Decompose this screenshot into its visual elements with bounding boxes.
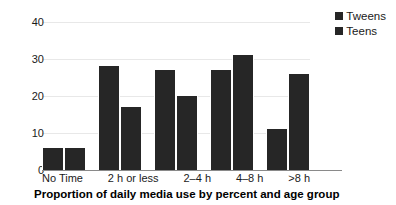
legend-swatch-teens-icon [335,27,343,35]
bar-groups [42,22,310,170]
y-axis-tick-10: 10 [18,127,44,139]
bar-tweens-0 [42,148,64,170]
bar-tweens-4 [266,129,288,170]
x-axis-labels: No Time2 h or less2–4 h4–8 h>8 h [42,172,310,184]
legend-swatch-tweens-icon [335,12,343,20]
chart-caption: Proportion of daily media use by percent… [34,188,374,200]
legend-label-tweens: Tweens [346,10,386,22]
legend-item-tweens[interactable]: Tweens [335,10,386,22]
bar-group [210,22,254,170]
chart-legend: TweensTeens [335,10,386,37]
bar-teens-0 [64,148,86,170]
x-axis-label-3: 4–8 h [236,172,264,184]
bar-group [98,22,142,170]
bar-tweens-1 [98,66,120,170]
y-axis-tick-20: 20 [18,90,44,102]
bar-teens-1 [120,107,142,170]
bar-teens-2 [176,96,198,170]
y-axis-tick-40: 40 [18,16,44,28]
bar-teens-4 [288,74,310,170]
bar-chart: 40 30 20 10 0 No Time2 h or less2–4 h4–8… [0,0,396,205]
x-axis-label-0: No Time [42,172,83,184]
bar-group [266,22,310,170]
x-axis-label-1: 2 h or less [108,172,159,184]
x-axis-label-2: 2–4 h [183,172,211,184]
bar-tweens-3 [210,70,232,170]
bar-group [154,22,198,170]
bar-teens-3 [232,55,254,170]
bar-group [42,22,86,170]
legend-label-teens: Teens [346,25,377,37]
y-axis-tick-30: 30 [18,53,44,65]
x-axis-line [42,170,342,171]
x-axis-label-4: >8 h [288,172,310,184]
legend-item-teens[interactable]: Teens [335,25,386,37]
bar-tweens-2 [154,70,176,170]
y-axis-tick-0: 0 [18,164,44,176]
